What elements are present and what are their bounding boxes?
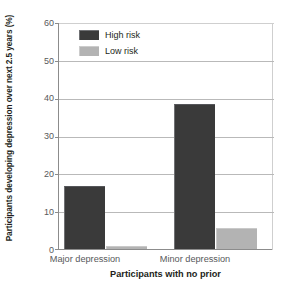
- x-category-label-major-depression: Major depression: [30, 254, 140, 264]
- legend-swatch-low-risk-icon: [79, 46, 99, 56]
- y-tick-mark-20: [55, 174, 59, 175]
- y-tick-label-20: 20: [32, 170, 54, 179]
- y-tick-mark-30: [55, 137, 59, 138]
- y-tick-mark-10: [55, 212, 59, 213]
- bar-minor-depression-high-risk[interactable]: [174, 104, 215, 249]
- x-category-label-minor-depression: Minor depression: [140, 254, 250, 264]
- y-axis-title: Participants developing depression over …: [1, 3, 17, 253]
- gridline-30: [59, 137, 274, 138]
- y-tick-label-50: 50: [32, 57, 54, 66]
- y-tick-mark-50: [55, 61, 59, 62]
- y-tick-mark-60: [55, 23, 59, 24]
- gridline-50: [59, 61, 274, 62]
- bar-major-depression-low-risk[interactable]: [106, 246, 147, 249]
- y-tick-label-30: 30: [32, 132, 54, 141]
- legend-item-high-risk[interactable]: High risk: [79, 28, 171, 42]
- y-tick-label-60: 60: [32, 19, 54, 28]
- plot-frame-top-border: [59, 23, 274, 24]
- y-tick-mark-0: [55, 249, 59, 250]
- legend-swatch-high-risk-icon: [79, 30, 99, 40]
- x-axis-title: Participants with no prior: [58, 269, 273, 279]
- y-tick-mark-40: [55, 99, 59, 100]
- y-tick-label-40: 40: [32, 94, 54, 103]
- legend-label-high-risk: High risk: [105, 30, 140, 40]
- plot-area: High risk Low risk: [58, 23, 273, 250]
- bar-chart-figure: Participants developing depression over …: [0, 0, 291, 285]
- y-tick-label-10: 10: [32, 208, 54, 217]
- gridline-40: [59, 99, 274, 100]
- bar-major-depression-high-risk[interactable]: [64, 186, 105, 249]
- gridline-20: [59, 174, 274, 175]
- legend-label-low-risk: Low risk: [105, 46, 138, 56]
- bar-minor-depression-low-risk[interactable]: [216, 228, 257, 249]
- legend-item-low-risk[interactable]: Low risk: [79, 44, 171, 58]
- legend: High risk Low risk: [79, 28, 171, 60]
